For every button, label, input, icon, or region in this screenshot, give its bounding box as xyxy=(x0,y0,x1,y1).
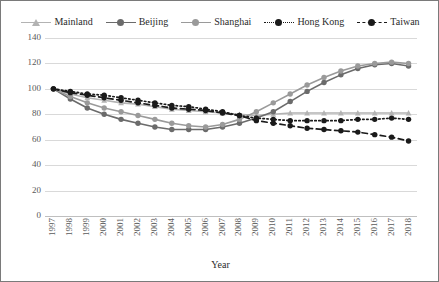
x-tick-label: 2007 xyxy=(218,218,227,236)
data-point xyxy=(287,99,292,104)
x-tick-label: 2013 xyxy=(319,218,328,236)
data-point xyxy=(85,105,90,110)
data-point xyxy=(389,134,394,139)
legend-swatch-icon xyxy=(357,17,387,28)
y-axis-tick-labels: 020406080100120140 xyxy=(1,38,41,216)
chart-container: MainlandBeijingShanghaiHong KongTaiwan 0… xyxy=(0,0,439,282)
data-point xyxy=(203,124,208,129)
data-point xyxy=(304,82,309,87)
x-tick-label: 2010 xyxy=(268,218,277,236)
data-point xyxy=(304,89,309,94)
legend-item[interactable]: Taiwan xyxy=(357,17,419,28)
legend-swatch-icon xyxy=(21,17,51,28)
data-point xyxy=(135,120,140,125)
legend-swatch-icon xyxy=(181,17,211,28)
x-tick-label: 2008 xyxy=(234,218,243,236)
x-tick-label: 2006 xyxy=(201,218,210,236)
data-point xyxy=(338,68,343,73)
data-point xyxy=(220,110,225,115)
x-tick-label: 2002 xyxy=(133,218,142,236)
data-point xyxy=(389,59,394,64)
data-point xyxy=(254,109,259,114)
data-point xyxy=(186,123,191,128)
data-point xyxy=(152,124,157,129)
data-point xyxy=(389,115,394,120)
data-point xyxy=(271,100,276,105)
data-point xyxy=(338,118,343,123)
y-tick-label: 60 xyxy=(1,135,41,144)
x-tick-label: 2011 xyxy=(285,218,294,236)
data-point xyxy=(321,118,326,123)
data-point xyxy=(85,100,90,105)
legend-item[interactable]: Beijing xyxy=(106,17,168,28)
data-point xyxy=(321,127,326,132)
y-tick-label: 0 xyxy=(1,211,41,220)
data-point xyxy=(135,100,140,105)
x-tick-label: 2018 xyxy=(404,218,413,236)
data-point xyxy=(152,117,157,122)
y-tick-label: 100 xyxy=(1,84,41,93)
data-point xyxy=(237,113,242,118)
data-point xyxy=(169,105,174,110)
x-tick-label: 2003 xyxy=(150,218,159,236)
y-tick-label: 20 xyxy=(1,186,41,195)
data-point xyxy=(372,117,377,122)
data-point xyxy=(406,61,411,66)
x-tick-label: 2015 xyxy=(353,218,362,236)
legend-marker-icon xyxy=(32,19,40,26)
data-point xyxy=(169,120,174,125)
data-point xyxy=(68,90,73,95)
legend-item[interactable]: Mainland xyxy=(21,17,92,28)
data-point xyxy=(406,138,411,143)
legend-marker-icon xyxy=(192,19,199,26)
x-axis-line xyxy=(45,216,417,217)
data-point xyxy=(271,120,276,125)
x-tick-label: 1998 xyxy=(65,218,74,236)
data-point xyxy=(118,109,123,114)
x-tick-label: 2012 xyxy=(302,218,311,236)
data-point xyxy=(85,93,90,98)
data-point xyxy=(186,107,191,112)
x-tick-label: 2009 xyxy=(251,218,260,236)
x-tick-label: 2005 xyxy=(184,218,193,236)
y-tick-label: 80 xyxy=(1,109,41,118)
data-point xyxy=(355,117,360,122)
data-point xyxy=(287,91,292,96)
data-point xyxy=(321,75,326,80)
legend-label: Hong Kong xyxy=(297,17,344,27)
series-lines xyxy=(45,38,417,216)
data-point xyxy=(203,108,208,113)
data-point xyxy=(271,109,276,114)
data-point xyxy=(372,61,377,66)
legend-label: Beijing xyxy=(139,17,168,27)
x-axis-title: Year xyxy=(1,259,439,270)
x-tick-label: 2017 xyxy=(387,218,396,236)
data-point xyxy=(287,123,292,128)
data-point xyxy=(406,117,411,122)
data-point xyxy=(51,86,56,91)
x-tick-label: 2004 xyxy=(167,218,176,236)
legend-item[interactable]: Shanghai xyxy=(181,17,251,28)
data-point xyxy=(287,118,292,123)
x-tick-label: 1997 xyxy=(48,218,57,236)
y-tick-label: 120 xyxy=(1,58,41,67)
y-tick-label: 140 xyxy=(1,33,41,42)
legend-swatch-icon xyxy=(106,17,136,28)
data-point xyxy=(372,132,377,137)
data-point xyxy=(169,127,174,132)
legend-marker-icon xyxy=(368,19,375,26)
data-point xyxy=(355,129,360,134)
chart-legend: MainlandBeijingShanghaiHong KongTaiwan xyxy=(1,11,439,33)
data-point xyxy=(220,122,225,127)
legend-marker-icon xyxy=(275,19,282,26)
legend-item[interactable]: Hong Kong xyxy=(264,17,344,28)
data-point xyxy=(101,95,106,100)
x-tick-label: 2001 xyxy=(116,218,125,236)
data-point xyxy=(118,117,123,122)
data-point xyxy=(355,63,360,68)
data-point xyxy=(304,126,309,131)
data-point xyxy=(135,113,140,118)
x-tick-label: 1999 xyxy=(82,218,91,236)
x-tick-label: 2016 xyxy=(370,218,379,236)
data-point xyxy=(321,80,326,85)
